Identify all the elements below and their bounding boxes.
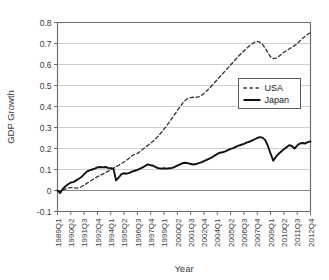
x-tick-label: 1992Q4 <box>94 218 103 247</box>
y-tick-label: 0.3 <box>40 123 52 133</box>
x-tick-label: 1994Q1 <box>107 218 116 247</box>
x-tick-label: 2002Q4 <box>200 218 209 247</box>
x-tick-label: 2011Q3 <box>293 218 302 246</box>
x-tick-label: 1995Q2 <box>120 218 129 247</box>
x-tick-label: 1989Q1 <box>54 218 63 247</box>
y-tick-label: 0.5 <box>40 81 52 91</box>
y-tick-label: 0.4 <box>40 102 52 112</box>
x-tick-label: 1991Q3 <box>80 218 89 247</box>
x-tick-label: 1999Q1 <box>160 218 169 247</box>
y-tick-label: 0.1 <box>40 165 52 175</box>
x-tick-label: 1990Q2 <box>67 218 76 247</box>
y-tick-label: 0.7 <box>40 39 52 49</box>
y-tick-label: 0.8 <box>40 18 52 28</box>
x-tick-label: 2006Q3 <box>240 218 249 247</box>
chart-legend: USAJapan <box>239 79 301 109</box>
x-tick-label: 2009Q1 <box>267 218 276 247</box>
x-tick-label: 2000Q2 <box>174 218 183 247</box>
y-tick-label: -0.1 <box>37 207 52 217</box>
x-tick-label: 1996Q3 <box>134 218 143 247</box>
legend-label-usa: USA <box>265 83 284 93</box>
x-tick-label: 2004Q1 <box>213 218 222 247</box>
y-axis-title: GDP Growth <box>5 90 16 144</box>
chart-canvas: -0.100.10.20.30.40.50.60.70.8 1989Q11990… <box>0 0 329 280</box>
x-tick-label: 1997Q4 <box>147 218 156 247</box>
x-tick-label: 2005Q2 <box>227 218 236 247</box>
x-tick-label: 2010Q2 <box>280 218 289 247</box>
x-tick-label: 2012Q4 <box>307 218 316 247</box>
y-tick-label: 0 <box>47 186 52 196</box>
x-axis-title: Year <box>174 263 193 274</box>
y-tick-label: 0.6 <box>40 60 52 70</box>
x-tick-label: 2007Q4 <box>253 218 262 247</box>
gdp-growth-chart: -0.100.10.20.30.40.50.60.70.8 1989Q11990… <box>0 0 329 280</box>
legend-label-japan: Japan <box>265 95 290 105</box>
y-tick-label: 0.2 <box>40 144 52 154</box>
x-tick-label: 2001Q3 <box>187 218 196 247</box>
